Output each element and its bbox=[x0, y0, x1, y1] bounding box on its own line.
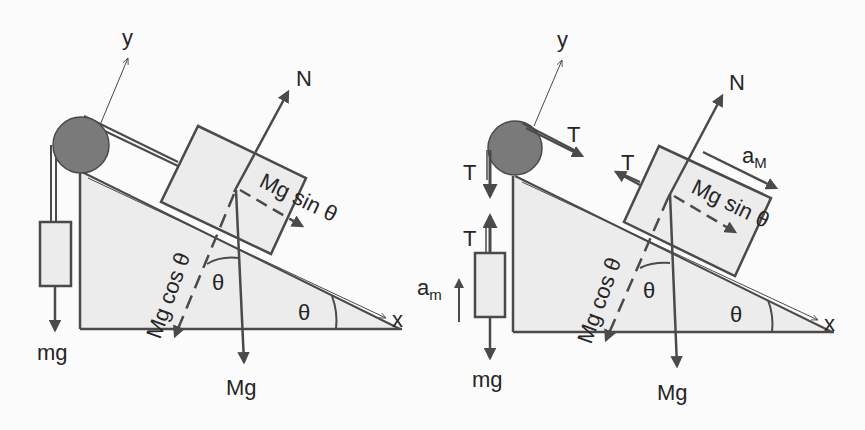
hanging-mass-m bbox=[475, 253, 505, 317]
accel-hanging-label: am bbox=[417, 275, 442, 303]
right-diagram: y x N Mg mg θ θ Mg sin θ Mg cos θ T T T … bbox=[417, 27, 835, 405]
angle-block-label: θ bbox=[643, 278, 655, 303]
normal-label: N bbox=[729, 70, 745, 95]
y-axis-label: y bbox=[557, 27, 568, 52]
y-axis-arrow bbox=[100, 58, 128, 125]
pulley bbox=[53, 117, 109, 173]
weight-block-label: Mg bbox=[657, 380, 688, 405]
weight-hanging-label: mg bbox=[37, 340, 68, 365]
y-axis-label: y bbox=[122, 25, 133, 50]
tension-hanging-label: T bbox=[463, 226, 476, 251]
angle-block-label: θ bbox=[212, 270, 224, 295]
x-axis-label: x bbox=[392, 307, 403, 332]
weight-hanging-label: mg bbox=[472, 367, 503, 392]
x-axis-label: x bbox=[824, 311, 835, 336]
angle-incline-label: θ bbox=[298, 300, 310, 325]
normal-label: N bbox=[296, 66, 312, 91]
hanging-mass-m bbox=[40, 222, 71, 286]
tension-block-label: T bbox=[621, 150, 634, 175]
angle-incline-label: θ bbox=[730, 302, 742, 327]
tension-pulley-side-label: T bbox=[463, 160, 476, 185]
y-axis-arrow bbox=[534, 60, 562, 126]
tension-pulley-top-label: T bbox=[567, 122, 580, 147]
left-diagram: y x N Mg mg θ θ Mg sin θ Mg cos θ bbox=[37, 25, 403, 400]
accel-block-label: aM bbox=[742, 143, 767, 171]
weight-block-label: Mg bbox=[226, 375, 257, 400]
incline-pulley-diagram: y x N Mg mg θ θ Mg sin θ Mg cos θ bbox=[0, 0, 865, 430]
